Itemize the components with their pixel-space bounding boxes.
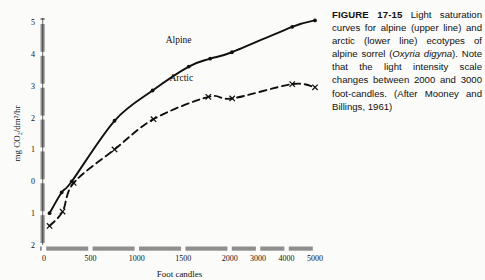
data-point-marker [230, 50, 234, 54]
y-tick-label: 1 [31, 209, 35, 218]
data-point-marker [48, 211, 52, 215]
x-axis-tick-labels: 0500100015002000300040005000 [42, 254, 323, 263]
data-point-marker [187, 65, 191, 69]
caption-figure-number: FIGURE 17-15 [332, 9, 402, 20]
y-tick-label: 1 [31, 145, 35, 154]
series-label-arctic: Arctic [169, 73, 193, 83]
light-saturation-chart: 54321012 0500100015002000300040005000 mg… [0, 0, 330, 280]
data-point-marker [60, 191, 64, 195]
x-tick-label: 3000 [250, 254, 266, 263]
y-tick-label: 4 [31, 50, 35, 59]
data-point-marker [47, 223, 52, 228]
y-axis-title: mg CO₂/dm²/hr [12, 105, 22, 161]
data-point-marker [113, 119, 117, 123]
data-series-layer [47, 19, 318, 229]
series-arctic [47, 81, 318, 228]
data-point-marker [112, 147, 117, 152]
y-tick-label: 0 [31, 177, 35, 186]
data-point-marker [60, 209, 65, 214]
y-axis [41, 18, 45, 245]
chart-figure: 54321012 0500100015002000300040005000 mg… [0, 0, 330, 280]
x-tick-label: 0 [42, 254, 46, 263]
x-tick-label: 1500 [175, 254, 191, 263]
y-tick-label: 5 [31, 18, 35, 27]
x-tick-label: 2000 [222, 254, 238, 263]
y-tick-label: 3 [31, 82, 35, 91]
y-tick-label: 2 [31, 241, 35, 250]
x-tick-label: 4000 [279, 254, 295, 263]
x-axis-title: Foot candles [157, 269, 203, 279]
data-point-marker [313, 19, 317, 23]
x-axis [40, 247, 313, 251]
series-inline-labels: AlpineArctic [166, 35, 194, 83]
curve-alpine [50, 20, 315, 213]
data-point-marker [151, 89, 155, 93]
x-tick-label: 500 [84, 254, 96, 263]
series-alpine [48, 19, 317, 216]
y-axis-tick-labels: 54321012 [31, 18, 35, 250]
figure-caption: FIGURE 17-15 Light saturation curves for… [332, 8, 482, 113]
series-label-alpine: Alpine [166, 35, 192, 45]
data-point-marker [208, 57, 212, 61]
y-tick-label: 2 [31, 114, 35, 123]
data-point-marker [312, 85, 317, 90]
figure-page: 54321012 0500100015002000300040005000 mg… [0, 0, 485, 280]
x-tick-label: 5000 [307, 254, 323, 263]
data-point-marker [290, 25, 294, 29]
x-tick-label: 1000 [129, 254, 145, 263]
caption-species-name: Oxyria digyna [392, 48, 452, 59]
caption-block: FIGURE 17-15 Light saturation curves for… [332, 8, 482, 148]
